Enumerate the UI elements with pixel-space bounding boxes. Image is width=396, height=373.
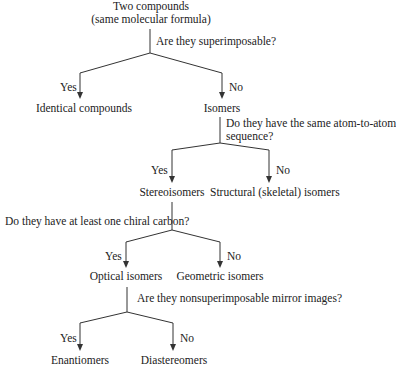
arrow-icon — [77, 92, 83, 99]
yes-label: Yes — [151, 164, 168, 177]
arrow-icon — [77, 344, 83, 351]
question-atom-sequence-line2: sequence? — [226, 130, 273, 143]
root-node-title: Two compounds — [113, 0, 189, 13]
node-identical-compounds: Identical compounds — [36, 102, 132, 115]
arrow-icon — [217, 261, 223, 268]
yes-label: Yes — [60, 332, 77, 345]
yes-label: Yes — [60, 81, 77, 94]
no-label: No — [180, 332, 194, 345]
node-optical-isomers: Optical isomers — [90, 270, 163, 283]
question-superimposable: Are they superimposable? — [156, 35, 276, 48]
node-enantiomers: Enantiomers — [51, 354, 109, 367]
node-diastereomers: Diastereomers — [141, 354, 207, 367]
node-isomers: Isomers — [204, 102, 240, 115]
arrow-icon — [219, 92, 225, 99]
branch-chiral-carbon — [126, 202, 220, 261]
yes-label: Yes — [105, 250, 122, 263]
question-mirror-images: Are they nonsuperimposable mirror images… — [137, 292, 342, 305]
arrow-icon — [123, 261, 129, 268]
node-structural-isomers: Structural (skeletal) isomers — [210, 186, 340, 199]
node-stereoisomers: Stereoisomers — [139, 186, 204, 199]
arrow-icon — [169, 176, 175, 183]
arrow-icon — [266, 176, 272, 183]
no-label: No — [229, 81, 243, 94]
question-atom-sequence-line1: Do they have the same atom-to-atom — [226, 117, 396, 130]
node-geometric-isomers: Geometric isomers — [176, 270, 263, 283]
question-chiral-carbon: Do they have at least one chiral carbon? — [5, 215, 189, 228]
root-node-subtitle: (same molecular formula) — [91, 13, 210, 26]
no-label: No — [276, 164, 290, 177]
no-label: No — [227, 250, 241, 263]
arrow-icon — [170, 344, 176, 351]
